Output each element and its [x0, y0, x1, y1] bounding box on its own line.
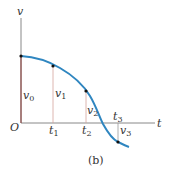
t-axis-label: t — [157, 117, 162, 130]
label-t2: t2 — [82, 124, 92, 138]
point-v3 — [116, 140, 119, 143]
label-v0: v0 — [23, 89, 34, 103]
label-t1: t1 — [49, 124, 59, 138]
v-axis-label: v — [17, 5, 24, 18]
label-v1: v1 — [55, 87, 66, 101]
figure-caption: (b) — [88, 154, 104, 167]
point-v1 — [51, 64, 54, 67]
origin-label: O — [10, 121, 19, 134]
velocity-curve — [21, 56, 129, 147]
label-t3: t3 — [113, 110, 123, 124]
label-v3: v3 — [120, 124, 131, 138]
velocity-time-diagram: v t O v0 v1 v2 v3 t1 t2 t3 (b) — [0, 0, 171, 177]
point-v0 — [19, 54, 22, 57]
label-v2: v2 — [87, 104, 98, 118]
diagram-canvas: v t O v0 v1 v2 v3 t1 t2 t3 (b) — [0, 0, 171, 177]
point-v2 — [84, 89, 87, 92]
